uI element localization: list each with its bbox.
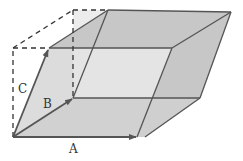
vector-b-label: B xyxy=(43,97,52,111)
vector-c-label: C xyxy=(18,82,27,96)
vector-a-label: A xyxy=(68,142,78,156)
parallelepiped-diagram: A B C xyxy=(0,0,243,161)
